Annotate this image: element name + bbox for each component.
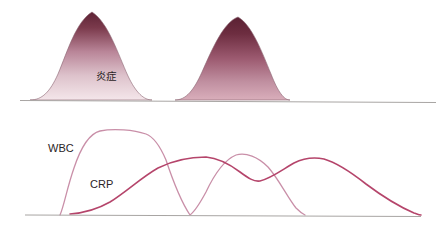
inflammation-label: 炎症 xyxy=(96,70,117,82)
crp-label: CRP xyxy=(90,178,113,190)
wbc-label: WBC xyxy=(48,142,74,154)
figure-canvas: 炎症 WBC CRP xyxy=(0,0,444,232)
